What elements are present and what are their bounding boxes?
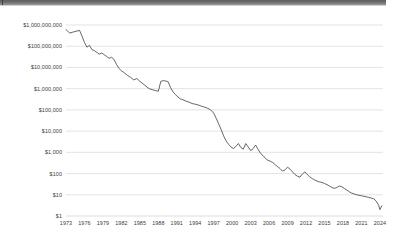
y-axis-label: $1,000,000 bbox=[34, 86, 62, 92]
y-axis-label: $10,000,000 bbox=[31, 64, 62, 70]
x-axis-label: 2000 bbox=[226, 220, 238, 226]
x-axis-label: 1988 bbox=[152, 220, 164, 226]
y-axis-label: $10,000 bbox=[42, 128, 62, 134]
x-axis-label: 2015 bbox=[318, 220, 330, 226]
y-axis-label: $1 bbox=[56, 213, 62, 219]
x-axis-label: 2003 bbox=[244, 220, 256, 226]
x-axis-label: 1985 bbox=[134, 220, 146, 226]
x-axis-label: 1973 bbox=[60, 220, 72, 226]
x-axis-tick-labels: 1973197619791982198519881991199419972000… bbox=[60, 220, 386, 226]
y-axis-label: $100,000 bbox=[39, 107, 62, 113]
x-axis-label: 2012 bbox=[300, 220, 312, 226]
x-axis-label: 1997 bbox=[208, 220, 220, 226]
x-axis-label: 1976 bbox=[78, 220, 90, 226]
y-axis-label: $1,000,000,000 bbox=[23, 22, 62, 28]
x-axis-label: 2006 bbox=[263, 220, 275, 226]
x-axis-label: 1979 bbox=[97, 220, 109, 226]
y-axis-tick-labels: $1,000,000,000$100,000,000$10,000,000$1,… bbox=[23, 22, 62, 219]
chart-screenshot: $1,000,000,000$100,000,000$10,000,000$1,… bbox=[0, 0, 395, 243]
x-axis-label: 2018 bbox=[337, 220, 349, 226]
y-axis-label: $1,000 bbox=[45, 149, 62, 155]
y-axis-label: $100 bbox=[50, 171, 62, 177]
data-series-line bbox=[66, 30, 382, 210]
x-axis-label: 1991 bbox=[171, 220, 183, 226]
gridline-group bbox=[66, 25, 383, 216]
x-axis-label: 2009 bbox=[281, 220, 293, 226]
x-axis-label: 2024 bbox=[374, 220, 386, 226]
x-axis-label: 1982 bbox=[115, 220, 127, 226]
x-axis-label: 2021 bbox=[355, 220, 367, 226]
x-axis-label: 1994 bbox=[189, 220, 201, 226]
chart-plot-area: $1,000,000,000$100,000,000$10,000,000$1,… bbox=[0, 0, 395, 243]
y-axis-label: $10 bbox=[53, 192, 62, 198]
y-axis-label: $100,000,000 bbox=[28, 43, 62, 49]
line-chart-svg: $1,000,000,000$100,000,000$10,000,000$1,… bbox=[0, 0, 395, 243]
